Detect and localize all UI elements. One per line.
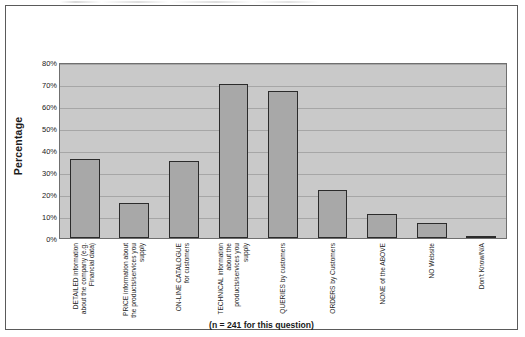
x-label-slot: NONE of the ABOVE [358,241,408,319]
y-tick-label: 40% [30,147,57,156]
y-axis-tick-labels: 80%70%60%50%40%30%20%10%0% [30,63,57,239]
bar-slot [258,64,308,238]
bar[interactable] [367,214,397,238]
bar[interactable] [70,159,100,238]
y-tick-label: 20% [30,191,57,200]
x-tick-label: TECHNICAL information about the products… [217,243,250,319]
x-label-slot: ON-LINE CATALOGUE for customers [159,241,209,319]
y-tick-label: 50% [30,125,57,134]
x-tick-label: NONE of the ABOVE [378,243,386,319]
y-tick-label: 10% [30,213,57,222]
x-tick-label: ON-LINE CATALOGUE for customers [175,243,191,319]
bar-slot [159,64,209,238]
x-axis-tick-labels: DETAILED information about the company (… [59,241,507,319]
x-label-slot: NO Website [407,241,457,319]
y-tick-label: 30% [30,169,57,178]
bar[interactable] [318,190,348,238]
y-tick-label: 70% [30,81,57,90]
x-label-slot: Don't Know/N/A [457,241,507,319]
plot-area [59,63,507,239]
bar-slot [209,64,259,238]
x-label-slot: TECHNICAL information about the products… [208,241,258,319]
y-tick-label: 0% [30,235,57,244]
bar[interactable] [219,84,249,238]
bar-slot [407,64,457,238]
y-tick-label: 60% [30,103,57,112]
bar[interactable] [169,161,199,238]
x-tick-label: DETAILED information about the company (… [72,243,97,319]
x-tick-label: NO Website [428,243,436,319]
x-label-slot: PRICE information about the products/ser… [109,241,159,319]
bar-slot [308,64,358,238]
chart-figure-frame: Percentage 80%70%60%50%40%30%20%10%0% DE… [5,5,518,330]
x-tick-label: ORDERS by Customers [329,243,337,319]
bar[interactable] [268,91,298,238]
x-label-slot: DETAILED information about the company (… [59,241,109,319]
bar-series [60,64,506,238]
bar[interactable] [119,203,149,238]
x-tick-label: QUERIES by customers [279,243,287,319]
chart-caption: (n = 241 for this question) [6,320,517,330]
x-tick-label: PRICE information about the products/ser… [121,243,146,319]
x-label-slot: QUERIES by customers [258,241,308,319]
y-tick-label: 80% [30,59,57,68]
bar[interactable] [417,223,447,238]
x-tick-label: Don't Know/N/A [478,243,486,319]
x-label-slot: ORDERS by Customers [308,241,358,319]
bar-slot [457,64,507,238]
bar-slot [110,64,160,238]
bar-slot [357,64,407,238]
y-axis-title: Percentage [12,86,28,206]
bar[interactable] [466,236,496,238]
bar-slot [60,64,110,238]
